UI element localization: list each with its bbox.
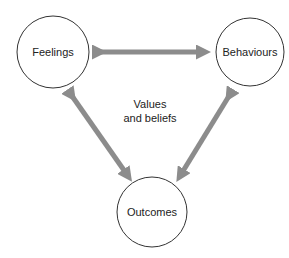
arrow-behaviours-outcomes [180,96,229,176]
node-behaviours: Behaviours [216,18,284,86]
cycle-diagram: Feelings Behaviours Outcomes Values and … [0,0,289,258]
node-behaviours-label: Behaviours [222,46,278,58]
arrow-feelings-outcomes [72,96,128,176]
center-label-line2: and beliefs [123,112,177,124]
node-feelings-label: Feelings [32,46,74,58]
node-outcomes-label: Outcomes [127,206,178,218]
center-label-line1: Values [134,98,167,110]
node-feelings: Feelings [17,16,89,88]
node-outcomes: Outcomes [117,177,187,247]
